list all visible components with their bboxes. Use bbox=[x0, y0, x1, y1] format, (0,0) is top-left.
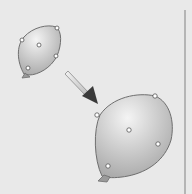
control-point[interactable] bbox=[153, 94, 157, 98]
control-point[interactable] bbox=[127, 128, 131, 132]
control-point[interactable] bbox=[26, 66, 30, 70]
illustration-canvas bbox=[0, 0, 192, 194]
scaling-illustration bbox=[0, 0, 192, 194]
control-point[interactable] bbox=[95, 113, 99, 117]
control-point[interactable] bbox=[54, 54, 58, 58]
right-border-line bbox=[184, 10, 186, 194]
control-point[interactable] bbox=[55, 26, 59, 30]
control-point[interactable] bbox=[156, 142, 160, 146]
control-point[interactable] bbox=[37, 43, 41, 47]
control-point[interactable] bbox=[20, 38, 24, 42]
control-point[interactable] bbox=[106, 164, 110, 168]
